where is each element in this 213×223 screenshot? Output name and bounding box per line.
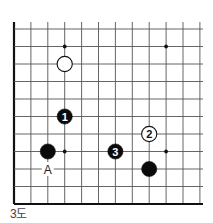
board-grid bbox=[14, 22, 203, 204]
black-stone bbox=[142, 161, 157, 176]
black-stone-1: 1 bbox=[57, 109, 72, 124]
star-point-icon bbox=[164, 45, 168, 49]
black-stone bbox=[40, 144, 55, 159]
star-point-icon bbox=[63, 150, 67, 154]
board-mark-label: A bbox=[44, 163, 52, 177]
white-stone-icon bbox=[57, 56, 72, 71]
star-point-icon bbox=[63, 45, 67, 49]
go-board: A 123 bbox=[0, 0, 213, 210]
white-stone-2: 2 bbox=[142, 126, 157, 141]
stone-move-number: 2 bbox=[146, 128, 152, 140]
stone-move-number: 1 bbox=[62, 111, 68, 123]
star-point-icon bbox=[164, 150, 168, 154]
black-stone-3: 3 bbox=[108, 144, 123, 159]
black-stone-icon bbox=[142, 161, 157, 176]
board-marks: A bbox=[42, 162, 54, 177]
diagram-caption: 3도 bbox=[10, 207, 27, 221]
white-stone bbox=[57, 56, 72, 71]
stone-move-number: 3 bbox=[112, 146, 118, 158]
black-stone-icon bbox=[40, 144, 55, 159]
